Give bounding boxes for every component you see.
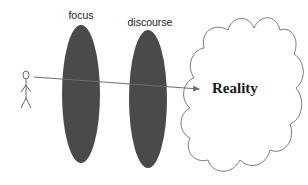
discourse-label: discourse	[128, 16, 173, 28]
discourse-lens: discourse	[128, 16, 173, 168]
perception-arrow	[34, 77, 199, 89]
focus-lens: focus	[62, 9, 100, 163]
reality-label: Reality	[212, 80, 258, 96]
focus-ellipse	[62, 25, 100, 163]
discourse-ellipse	[129, 30, 167, 168]
focus-label: focus	[68, 9, 93, 21]
focus-discourse-reality-diagram: Reality focus discourse	[0, 0, 308, 185]
stick-figure-icon	[21, 71, 31, 108]
reality-cloud: Reality	[181, 18, 303, 172]
